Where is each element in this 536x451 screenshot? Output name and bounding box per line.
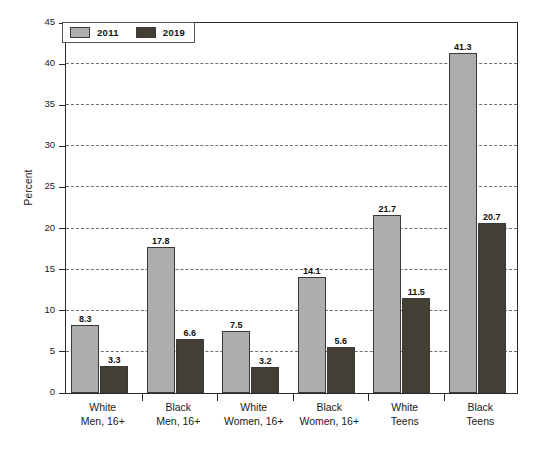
bar-group: 41.320.7: [444, 23, 520, 393]
bar-group: 7.53.2: [217, 23, 293, 393]
y-tick-label-10: 10: [30, 304, 55, 315]
y-tick-label-40: 40: [30, 57, 55, 68]
x-axis-labels: WhiteMen, 16+BlackMen, 16+WhiteWomen, 16…: [65, 400, 518, 444]
bar-value-label: 5.6: [334, 336, 347, 346]
x-axis-label: BlackTeens: [443, 400, 519, 428]
bar-2019-5: 20.7: [478, 223, 506, 393]
y-tick-mark-15: [59, 269, 66, 270]
y-tick-label-5: 5: [30, 345, 55, 356]
bar-2011-1: 17.8: [147, 247, 175, 393]
bar-2011-5: 41.3: [449, 53, 477, 393]
y-tick-label-35: 35: [30, 98, 55, 109]
bar-2011-4: 21.7: [373, 215, 401, 393]
bar-value-label: 6.6: [183, 328, 196, 338]
bar-2019-2: 3.2: [251, 367, 279, 393]
y-tick-mark-10: [59, 310, 66, 311]
chart-legend: 2011 2019: [62, 22, 195, 43]
bar-value-label: 41.3: [454, 42, 472, 52]
y-tick-mark-30: [59, 146, 66, 147]
plot-area: 051015202530354045 8.33.317.86.67.53.214…: [65, 22, 518, 394]
bar-2019-0: 3.3: [100, 366, 128, 393]
bar-value-label: 8.3: [79, 314, 92, 324]
legend-item-2019: 2019: [136, 27, 185, 38]
bar-value-label: 21.7: [378, 204, 396, 214]
x-axis-label: WhiteWomen, 16+: [216, 400, 292, 428]
bar-2019-1: 6.6: [176, 339, 204, 393]
bar-value-label: 20.7: [483, 212, 501, 222]
y-tick-mark-25: [59, 187, 66, 188]
bar-group: 21.711.5: [368, 23, 444, 393]
y-tick-label-45: 45: [30, 16, 55, 27]
x-axis-label: WhiteMen, 16+: [65, 400, 141, 428]
bar-2019-4: 11.5: [402, 298, 430, 393]
legend-item-2011: 2011: [70, 27, 119, 38]
y-tick-mark-20: [59, 228, 66, 229]
bar-2019-3: 5.6: [327, 347, 355, 393]
bar-value-label: 3.2: [259, 356, 272, 366]
legend-label-2019: 2019: [163, 27, 185, 38]
bar-2011-3: 14.1: [298, 277, 326, 393]
bars-layer: 8.33.317.86.67.53.214.15.621.711.541.320…: [66, 23, 517, 393]
bar-2011-2: 7.5: [222, 331, 250, 393]
y-tick-mark-0: [59, 393, 66, 394]
bar-value-label: 3.3: [108, 355, 121, 365]
y-tick-mark-5: [59, 351, 66, 352]
y-tick-label-20: 20: [30, 222, 55, 233]
y-tick-label-30: 30: [30, 139, 55, 150]
bar-group: 14.15.6: [293, 23, 369, 393]
bar-chart: Percent 051015202530354045 8.33.317.86.6…: [0, 0, 536, 451]
x-axis-label: BlackWomen, 16+: [292, 400, 368, 428]
legend-label-2011: 2011: [97, 27, 119, 38]
bar-group: 8.33.3: [66, 23, 142, 393]
x-axis-label: BlackMen, 16+: [141, 400, 217, 428]
legend-swatch-2019: [136, 27, 156, 38]
bar-2011-0: 8.3: [71, 325, 99, 393]
legend-swatch-2011: [70, 27, 90, 38]
y-tick-mark-35: [59, 105, 66, 106]
bar-value-label: 7.5: [230, 320, 243, 330]
y-tick-mark-40: [59, 64, 66, 65]
y-tick-label-15: 15: [30, 263, 55, 274]
y-tick-label-0: 0: [30, 386, 55, 397]
y-tick-label-25: 25: [30, 180, 55, 191]
x-axis-label: WhiteTeens: [367, 400, 443, 428]
bar-value-label: 14.1: [303, 266, 321, 276]
bar-value-label: 11.5: [408, 287, 425, 297]
bar-group: 17.86.6: [142, 23, 218, 393]
bar-value-label: 17.8: [152, 236, 170, 246]
